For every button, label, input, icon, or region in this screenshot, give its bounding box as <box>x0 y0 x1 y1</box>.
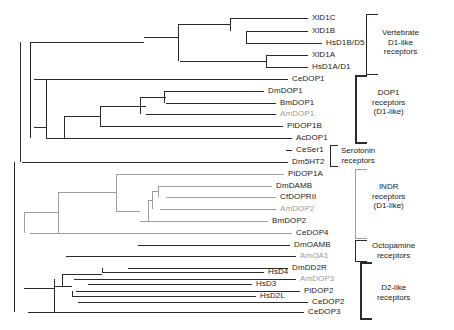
taxon-label: DmDOP1 <box>268 87 303 95</box>
tree-branch-horizontal <box>66 256 296 257</box>
taxon-label: HsD1A/D1 <box>312 63 351 71</box>
tree-branch-horizontal <box>166 197 276 198</box>
taxon-label: XlD1C <box>312 14 336 22</box>
taxon-label: AmDOP2 <box>280 205 314 213</box>
tree-branch-horizontal <box>158 186 272 187</box>
tree-branch-horizontal <box>246 31 308 32</box>
taxon-label: CeDOP2 <box>312 298 345 306</box>
tree-branch-horizontal <box>266 55 308 56</box>
tree-branch-horizontal <box>140 221 268 222</box>
tree-branch-horizontal <box>138 245 290 246</box>
tree-branch-horizontal <box>88 284 252 285</box>
taxon-label: HsD2L <box>260 292 285 300</box>
taxon-label: XlD1A <box>312 51 335 59</box>
tree-branch-horizontal <box>116 211 140 212</box>
tree-branch-horizontal <box>34 127 46 128</box>
group-bracket <box>366 14 378 75</box>
tree-branch-horizontal <box>58 192 116 193</box>
tree-branch-horizontal <box>46 138 292 139</box>
tree-branch-vertical <box>20 42 21 162</box>
taxon-label: DmDAMB <box>276 182 312 190</box>
taxon-label: DmDD2R <box>292 264 327 272</box>
tree-branch-vertical <box>100 106 101 126</box>
taxon-label: HsD4 <box>268 268 288 276</box>
tree-branch-horizontal <box>72 296 256 297</box>
taxon-label: BmDOP2 <box>272 217 306 225</box>
tree-branch-vertical <box>58 192 59 233</box>
tree-branch-vertical <box>54 279 55 312</box>
taxon-label: CfDOPRII <box>280 193 316 201</box>
group-bracket <box>355 75 367 144</box>
tree-branch-horizontal <box>160 209 276 210</box>
tree-branch-horizontal <box>24 212 58 213</box>
tree-branch-vertical <box>24 212 25 233</box>
tree-branch-horizontal <box>54 286 72 287</box>
tree-branch-horizontal <box>34 79 288 80</box>
group-bracket <box>360 262 372 320</box>
group-bracket <box>330 145 338 167</box>
group-bracket <box>355 169 367 239</box>
taxon-label: BmDOP1 <box>280 99 314 107</box>
tree-branch-vertical <box>140 97 141 114</box>
tree-branch-vertical <box>246 31 247 43</box>
group-label: INDR receptors (D1-like) <box>372 182 405 211</box>
group-label: Vertebrate D1-like receptors <box>382 28 419 57</box>
tree-branch-horizontal <box>100 126 283 127</box>
taxon-label: AmDOP3 <box>300 275 334 283</box>
tree-branch-horizontal <box>266 67 308 68</box>
tree-branch-vertical <box>30 42 31 138</box>
taxon-label: AmOA1 <box>300 252 329 260</box>
tree-branch-horizontal <box>144 37 178 38</box>
taxon-label: HsD3 <box>256 280 276 288</box>
tree-branch-horizontal <box>180 61 266 62</box>
taxon-label: CeDOP1 <box>292 75 325 83</box>
tree-branch-horizontal <box>78 302 308 303</box>
taxon-label: CeSer1 <box>296 146 324 154</box>
tree-branch-vertical <box>158 186 159 197</box>
tree-branch-horizontal <box>64 116 100 117</box>
tree-branch-horizontal <box>166 103 276 104</box>
tree-branch-vertical <box>178 24 179 61</box>
tree-branch-vertical <box>14 162 15 312</box>
group-label: Serotonin receptors <box>341 146 375 165</box>
group-label: D2-like receptors <box>377 283 410 302</box>
tree-branch-horizontal <box>116 174 284 175</box>
tree-branch-horizontal <box>128 268 288 269</box>
phylogenetic-tree-figure: XlD1CXlD1BHsD1B/D5XlD1AHsD1A/D1CeDOP1DmD… <box>0 0 454 330</box>
tree-branch-horizontal <box>246 43 322 44</box>
taxon-label: HsD1B/D5 <box>326 39 365 47</box>
tree-branch-vertical <box>102 268 103 272</box>
tree-branch-horizontal <box>102 272 264 273</box>
taxon-label: AmDOP1 <box>280 110 314 118</box>
tree-branch-horizontal <box>30 42 144 43</box>
tree-branch-horizontal <box>164 91 264 92</box>
tree-branch-horizontal <box>62 274 102 275</box>
tree-branch-horizontal <box>24 288 54 289</box>
tree-branch-horizontal <box>286 150 292 151</box>
taxon-label: CeDOP3 <box>308 308 341 316</box>
taxon-label: XlD1B <box>312 27 335 35</box>
tree-branch-horizontal <box>30 233 292 234</box>
taxon-label: PiDOP2 <box>304 287 334 295</box>
tree-branch-vertical <box>46 79 47 138</box>
tree-branch-vertical <box>148 200 149 221</box>
tree-branch-vertical <box>152 191 153 209</box>
taxon-label: PiDOP1A <box>288 170 323 178</box>
tree-branch-horizontal <box>146 114 276 115</box>
taxon-label: Dm5HT2 <box>292 158 325 166</box>
tree-branch-vertical <box>164 91 165 103</box>
tree-branch-horizontal <box>28 312 304 313</box>
taxon-label: CeDOP4 <box>296 229 329 237</box>
tree-branch-vertical <box>64 116 65 138</box>
tree-branch-vertical <box>266 55 267 67</box>
tree-branch-horizontal <box>22 162 288 163</box>
tree-branch-horizontal <box>178 24 230 25</box>
tree-branch-vertical <box>62 274 63 286</box>
tree-branch-vertical <box>72 291 73 296</box>
tree-branch-horizontal <box>230 18 308 19</box>
taxon-label: DmOAMB <box>294 241 331 249</box>
tree-branch-horizontal <box>140 97 166 98</box>
group-label: DOP1 receptors (D1-like) <box>372 88 405 117</box>
group-label: Octopamine receptors <box>372 241 415 260</box>
taxon-label: AcDOP1 <box>296 134 328 142</box>
